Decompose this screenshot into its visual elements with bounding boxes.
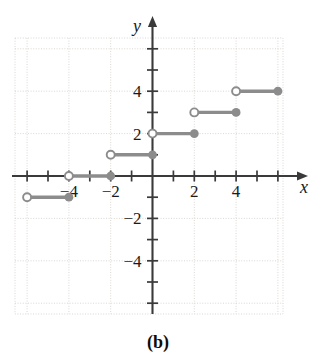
y-tick-label: 4 <box>133 82 142 101</box>
filled-endpoint-circle <box>232 108 241 117</box>
open-endpoint-circle <box>232 87 240 95</box>
y-tick-label: 2 <box>133 125 142 144</box>
x-tick-label: 2 <box>190 182 199 201</box>
step-segment <box>190 108 240 117</box>
coordinate-plane: −4−22442−2−4 x y (b) <box>0 0 316 354</box>
filled-endpoint-circle <box>190 129 199 138</box>
y-axis-label: y <box>131 16 141 36</box>
filled-endpoint-circle <box>148 150 157 159</box>
x-axis-label: x <box>299 177 308 197</box>
axes <box>12 16 308 314</box>
step-segment <box>107 150 157 159</box>
step-function-figure: −4−22442−2−4 x y (b) <box>0 0 316 354</box>
open-endpoint-circle <box>190 108 198 116</box>
filled-endpoint-circle <box>65 193 74 202</box>
step-segment <box>23 193 73 202</box>
open-endpoint-circle <box>23 193 31 201</box>
x-tick-label: −2 <box>102 182 120 201</box>
filled-endpoint-circle <box>106 172 115 181</box>
open-endpoint-circle <box>149 130 157 138</box>
y-tick-label: −2 <box>123 209 141 228</box>
open-endpoint-circle <box>65 172 73 180</box>
y-tick-label: −4 <box>123 252 142 271</box>
filled-endpoint-circle <box>274 87 283 96</box>
y-axis-arrowhead <box>148 16 157 27</box>
x-tick-label: 4 <box>232 182 241 201</box>
step-segment <box>232 87 282 96</box>
panel-label: (b) <box>147 332 169 353</box>
step-segment <box>149 129 199 138</box>
open-endpoint-circle <box>107 151 115 159</box>
